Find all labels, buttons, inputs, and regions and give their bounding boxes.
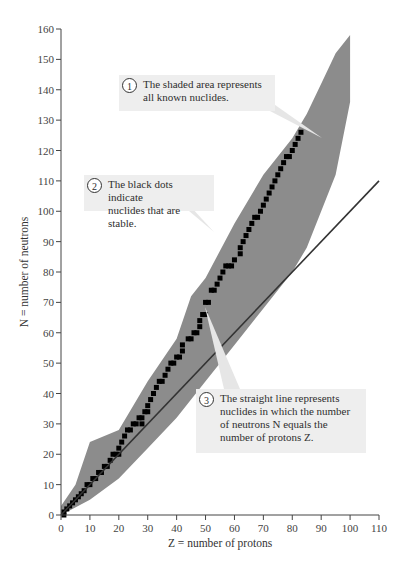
annotation-3-line-1: The straight line represents <box>220 392 360 405</box>
stable-nuclide-dot <box>163 373 168 378</box>
stable-nuclide-dot <box>177 355 182 360</box>
annotation-3-line-4: number of protons Z. <box>220 431 360 444</box>
stable-nuclide-dot <box>145 409 150 414</box>
x-tick-label: 20 <box>113 522 125 534</box>
stable-nuclide-dot <box>189 336 194 341</box>
y-tick-label: 0 <box>49 509 55 521</box>
stable-nuclide-dot <box>180 348 185 353</box>
y-tick-label: 50 <box>43 357 55 369</box>
y-tick-label: 130 <box>38 114 55 126</box>
stable-nuclide-dot <box>272 178 277 183</box>
stable-nuclide-dot <box>215 282 220 287</box>
stable-nuclide-dot <box>287 154 292 159</box>
x-tick-label: 90 <box>316 522 328 534</box>
stable-nuclide-dot <box>116 446 121 451</box>
stable-nuclide-dot <box>278 166 283 171</box>
stable-nuclide-dot <box>218 276 223 281</box>
annotation-3: 3 The straight line represents nuclides … <box>196 389 366 453</box>
stable-nuclide-dot <box>264 197 269 202</box>
x-axis-title: Z = number of protons <box>168 537 273 550</box>
annotation-2-line-2: nuclides that are stable. <box>108 204 208 230</box>
y-tick-label: 80 <box>43 266 55 278</box>
stable-nuclide-dot <box>171 361 176 366</box>
stable-nuclide-dot <box>154 385 159 390</box>
y-tick-label: 110 <box>38 175 55 187</box>
stable-nuclide-dot <box>206 300 211 305</box>
stable-nuclide-dot <box>139 421 144 426</box>
annotation-number-3: 3 <box>199 392 214 407</box>
stable-nuclide-dot <box>139 415 144 420</box>
y-tick-label: 40 <box>43 388 55 400</box>
stable-nuclide-dot <box>194 330 199 335</box>
x-tick-label: 10 <box>84 522 96 534</box>
stable-nuclide-dot <box>270 184 275 189</box>
stable-nuclide-dot <box>249 221 254 226</box>
stable-nuclide-dot <box>241 239 246 244</box>
y-tick-label: 90 <box>43 236 55 248</box>
annotation-3-line-2: nuclides in which the number <box>220 405 360 418</box>
stable-nuclide-dot <box>212 288 217 293</box>
stable-nuclide-dot <box>261 203 266 208</box>
y-tick-label: 70 <box>43 296 55 308</box>
stable-nuclide-dot <box>238 245 243 250</box>
x-tick-label: 30 <box>142 522 154 534</box>
stable-nuclide-dot <box>180 342 185 347</box>
x-tick-label: 110 <box>371 522 388 534</box>
y-tick-label: 160 <box>38 23 55 35</box>
stable-nuclide-dot <box>258 209 263 214</box>
stable-nuclide-dot <box>244 233 249 238</box>
stable-nuclide-dot <box>122 434 127 439</box>
y-tick-label: 120 <box>38 145 55 157</box>
y-tick-label: 20 <box>43 448 55 460</box>
stable-nuclide-dot <box>148 397 153 402</box>
annotation-1: 1 The shaded area represents all known n… <box>119 75 275 111</box>
x-tick-label: 60 <box>229 522 241 534</box>
stable-nuclide-dot <box>197 324 202 329</box>
y-axis-title: N = number of neutrons <box>18 216 30 327</box>
y-tick-label: 100 <box>38 205 55 217</box>
stable-nuclide-dot <box>220 270 225 275</box>
stable-nuclide-dot <box>298 130 303 135</box>
stable-nuclide-dot <box>197 318 202 323</box>
annotation-1-line-1: The shaded area represents <box>143 78 269 91</box>
annotation-2: 2 The black dots indicate nuclides that … <box>84 175 214 211</box>
stable-nuclide-dot <box>255 215 260 220</box>
stable-nuclide-dot <box>296 136 301 141</box>
y-tick-label: 140 <box>38 84 55 96</box>
stable-nuclide-dot <box>232 257 237 262</box>
stable-nuclide-dot <box>293 142 298 147</box>
x-tick-label: 0 <box>58 522 64 534</box>
y-tick-label: 30 <box>43 418 55 430</box>
x-axis: 0102030405060708090100110 <box>58 515 387 534</box>
stable-nuclide-dot <box>151 391 156 396</box>
y-tick-label: 150 <box>38 53 55 65</box>
stable-nuclide-dot <box>246 227 251 232</box>
annotation-2-line-1: The black dots indicate <box>108 178 208 204</box>
annotation-1-line-2: all known nuclides. <box>143 91 269 104</box>
stable-nuclide-dot <box>119 440 124 445</box>
annotation-3-line-3: of neutrons N equals the <box>220 418 360 431</box>
stable-nuclide-dot <box>281 160 286 165</box>
y-axis: 0102030405060708090100110120130140150160 <box>38 23 62 521</box>
x-tick-label: 50 <box>200 522 212 534</box>
stable-nuclide-dot <box>229 263 234 268</box>
stable-nuclide-dot <box>128 427 133 432</box>
x-tick-label: 70 <box>258 522 270 534</box>
stable-nuclide-dot <box>290 148 295 153</box>
annotation-number-1: 1 <box>122 78 137 93</box>
annotation-number-2: 2 <box>87 178 102 193</box>
stable-nuclide-dot <box>275 172 280 177</box>
x-tick-label: 80 <box>287 522 299 534</box>
y-tick-label: 60 <box>43 327 55 339</box>
stable-nuclide-dot <box>267 191 272 196</box>
stable-nuclide-dot <box>165 367 170 372</box>
stable-nuclide-dot <box>134 421 139 426</box>
stable-nuclide-dot <box>145 403 150 408</box>
stable-nuclide-dot <box>160 379 165 384</box>
x-tick-label: 100 <box>342 522 359 534</box>
y-tick-label: 10 <box>43 479 55 491</box>
stable-nuclide-dot <box>238 251 243 256</box>
x-tick-label: 40 <box>171 522 183 534</box>
